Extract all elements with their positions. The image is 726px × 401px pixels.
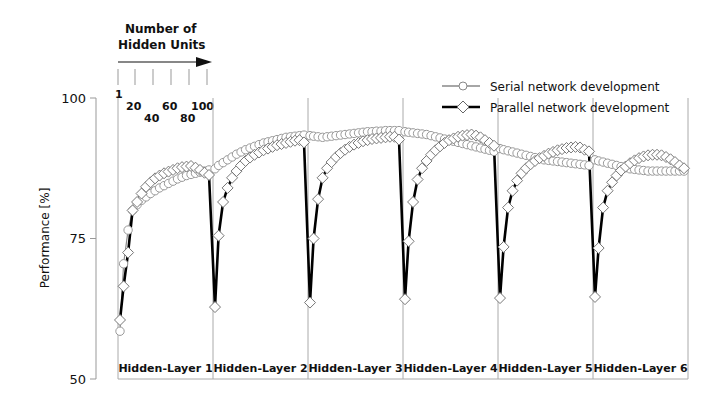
parallel-point <box>317 172 328 183</box>
hidden-units-title-line2: Hidden Units <box>118 38 205 52</box>
parallel-point <box>313 194 324 205</box>
y-tick-75: 75 <box>69 231 86 246</box>
series-group <box>115 126 690 335</box>
y-axis: 100 75 50 Performance [%] <box>38 91 96 387</box>
layer-label-1: Hidden-Layer 1 <box>118 362 212 375</box>
parallel-point <box>495 293 506 304</box>
serial-point <box>116 327 124 335</box>
parallel-point <box>222 182 233 193</box>
parallel-point <box>118 281 129 292</box>
legend-serial: Serial network development <box>490 80 660 94</box>
parallel-point <box>507 185 518 196</box>
diamond-marker-icon <box>457 101 469 113</box>
parallel-point <box>305 297 316 308</box>
parallel-point <box>590 291 601 302</box>
arrow-right-icon <box>196 57 212 67</box>
parallel-point <box>412 174 423 185</box>
parallel-point <box>598 202 609 213</box>
parallel-point <box>218 196 229 207</box>
parallel-point <box>115 314 126 325</box>
unit-tick-100: 100 <box>191 100 214 113</box>
hidden-units-title-line1: Number of <box>125 22 197 36</box>
layer-label-5: Hidden-Layer 5 <box>498 362 592 375</box>
parallel-point <box>408 196 419 207</box>
hidden-units-annotation: Number of Hidden Units 1 20 40 60 80 100 <box>115 22 214 125</box>
legend: Serial network development Parallel netw… <box>442 80 670 115</box>
y-tick-50: 50 <box>69 372 86 387</box>
unit-tick-60: 60 <box>162 100 178 113</box>
layer-label-6: Hidden-Layer 6 <box>593 362 688 375</box>
parallel-point <box>400 294 411 305</box>
parallel-point <box>213 230 224 241</box>
parallel-point <box>498 241 509 252</box>
y-axis-label: Performance [%] <box>38 188 52 289</box>
parallel-point <box>308 233 319 244</box>
circle-marker-icon <box>459 82 467 90</box>
y-tick-100: 100 <box>61 91 86 106</box>
parallel-point <box>403 236 414 247</box>
parallel-point <box>593 243 604 254</box>
unit-tick-40: 40 <box>144 112 160 125</box>
layer-label-4: Hidden-Layer 4 <box>403 362 498 375</box>
performance-chart: 100 75 50 Performance [%] Number of Hidd… <box>0 0 726 401</box>
parallel-point <box>503 202 514 213</box>
parallel-point <box>210 302 221 313</box>
unit-tick-80: 80 <box>180 112 196 125</box>
serial-point <box>124 226 132 234</box>
layer-label-3: Hidden-Layer 3 <box>308 362 402 375</box>
legend-parallel: Parallel network development <box>490 101 670 115</box>
layer-label-2: Hidden-Layer 2 <box>213 362 307 375</box>
unit-tick-1: 1 <box>115 88 123 101</box>
serial-point <box>119 260 127 268</box>
unit-tick-20: 20 <box>126 100 142 113</box>
